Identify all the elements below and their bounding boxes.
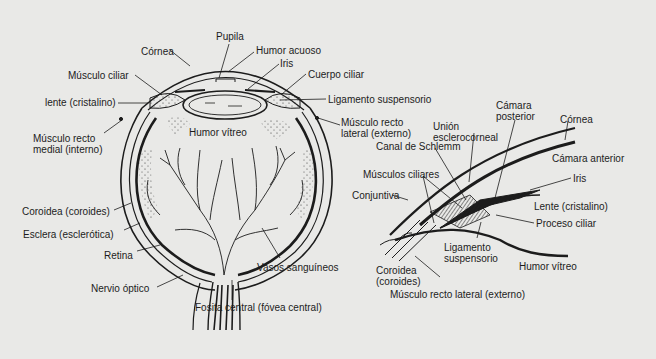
label-coroidea-detail: Coroidea (coroides) xyxy=(376,265,420,287)
label-canal-schlemm: Canal de Schlemm xyxy=(376,141,460,152)
label-camara-anterior: Cámara anterior xyxy=(552,153,624,164)
label-iris-detail: Iris xyxy=(573,173,586,184)
label-cornea-detail: Córnea xyxy=(560,114,593,125)
label-musculo-ciliar: Músculo ciliar xyxy=(68,70,129,81)
label-vasos-sanguineos: Vasos sanguíneos xyxy=(257,262,339,273)
label-union-esclerocorneal: Unión esclerocorneal xyxy=(433,121,498,143)
label-humor-vitreo: Humor vítreo xyxy=(189,127,247,138)
label-coroidea: Coroidea (coroides) xyxy=(22,206,110,217)
label-lente-detail: Lente (cristalino) xyxy=(534,201,608,212)
eye-illustration xyxy=(0,0,656,359)
label-ligamento-suspensorio-detail: Ligamento suspensorio xyxy=(444,242,498,264)
label-retina: Retina xyxy=(104,250,133,261)
label-musculo-recto-medial: Músculo recto medial (interno) xyxy=(33,133,102,155)
label-cuerpo-ciliar: Cuerpo ciliar xyxy=(308,69,364,80)
label-lente: lente (cristalino) xyxy=(45,97,116,108)
label-cornea: Córnea xyxy=(141,46,174,57)
label-musculo-recto-lateral: Músculo recto lateral (externo) xyxy=(341,117,411,139)
label-nervio-optico: Nervio óptico xyxy=(91,283,149,294)
label-humor-vitreo-detail: Humor vítreo xyxy=(519,261,577,272)
label-pupila: Pupila xyxy=(216,31,244,42)
label-humor-acuoso: Humor acuoso xyxy=(256,45,321,56)
label-fosita-central: Fosita central (fóvea central) xyxy=(195,302,322,313)
eye-anatomy-diagram: Pupila Córnea Humor acuoso Iris Músculo … xyxy=(0,0,656,359)
label-ligamento-suspensorio: Ligamento suspensorio xyxy=(328,94,431,105)
label-esclera: Esclera (esclerótica) xyxy=(23,229,114,240)
label-musculo-recto-lateral-detail: Músculo recto lateral (externo) xyxy=(390,289,525,300)
label-camara-posterior: Cámara posterior xyxy=(496,100,535,122)
label-conjuntiva: Conjuntiva xyxy=(352,190,399,201)
label-iris: Iris xyxy=(280,58,293,69)
label-proceso-ciliar: Proceso ciliar xyxy=(536,218,596,229)
label-musculos-ciliares: Músculos ciliares xyxy=(363,169,439,180)
